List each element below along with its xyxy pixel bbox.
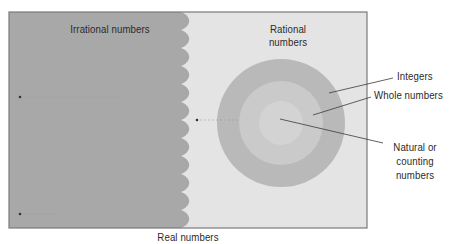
natural-label-line-2: counting (383, 154, 447, 168)
real-numbers-caption: Real numbers (144, 231, 232, 244)
irrational-numbers-label: Irrational numbers (64, 23, 156, 36)
integers-label: Integers (397, 70, 433, 83)
whole-numbers-label: Whole numbers (374, 89, 443, 102)
natural-numbers-label: Natural or counting numbers (383, 140, 447, 182)
irrational-region (9, 12, 189, 228)
rational-label-line-1: Rational (260, 23, 315, 36)
rational-label-line-2: numbers (260, 36, 315, 49)
natural-label-line-3: numbers (383, 168, 447, 182)
natural-label-line-1: Natural or (383, 140, 447, 154)
real-numbers-diagram (0, 0, 453, 244)
rational-numbers-label: Rational numbers (260, 23, 315, 49)
